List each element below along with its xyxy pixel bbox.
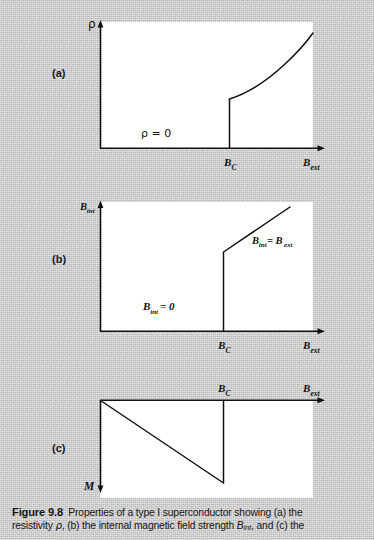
caption-bint-subscript: int	[244, 524, 252, 533]
panel-c-m-axis-label: M	[83, 480, 95, 492]
panel-c-tick-label-bc-subscript: C	[226, 389, 232, 398]
panel-c-x-axis-arrowhead	[318, 397, 326, 403]
panel-b-tick-label-bc-subscript: C	[226, 346, 232, 355]
figure-number: Figure 9.8	[12, 506, 63, 518]
panel-a-tick-label-bc: B	[223, 156, 231, 168]
panel-a: ρ ρ = 0 B C B ext	[0, 0, 374, 190]
panel-a-plot-area	[100, 22, 313, 148]
panel-c: M B C B ext	[0, 360, 374, 506]
caption-bint-symbol: B	[237, 520, 244, 531]
panel-b-x-axis-label-subscript: ext	[311, 346, 321, 355]
panel-c-tick-label-bc: B	[217, 382, 225, 394]
panel-b-annotation-bint-zero-subscript: int	[150, 308, 159, 316]
panel-b-x-axis-arrowhead	[318, 328, 326, 334]
panel-a-annotation-rho-zero: ρ = 0	[141, 127, 171, 140]
panel-b-annotation-equality-rhs-subscript: ext	[284, 241, 294, 249]
panel-b-x-axis-label: B	[302, 339, 310, 351]
caption-line-1: Properties of a type I superconductor sh…	[68, 507, 302, 518]
caption-line-2-part-b: , (b) the internal magnetic field streng…	[62, 520, 237, 531]
figure-caption: Figure 9.8 Properties of a type I superc…	[12, 506, 364, 535]
panel-b-annotation-bint-zero: B	[142, 300, 150, 312]
panel-b-annotation-equality-operator: = B	[267, 235, 283, 246]
panel-a-y-axis-label: ρ	[88, 17, 96, 31]
panel-a-x-axis-label-subscript: ext	[311, 163, 321, 172]
panel-b-plot-area	[100, 202, 313, 331]
panel-c-x-axis-label-subscript: ext	[311, 389, 321, 398]
panel-a-x-axis-label: B	[302, 156, 310, 168]
caption-line-2-part-c: , and (c) the	[251, 520, 304, 531]
panel-b: B int B int = 0 B int = B ext B C B ext	[0, 185, 374, 360]
panel-b-y-axis-label-subscript: int	[87, 207, 96, 215]
panel-c-x-axis-label: B	[302, 382, 310, 394]
panel-c-plot-area	[100, 400, 313, 498]
panel-b-annotation-bint-zero-tail: = 0	[160, 300, 175, 312]
panel-b-tick-label-bc: B	[217, 339, 225, 351]
caption-line-2-part-a: resistivity	[12, 520, 55, 531]
panel-a-x-axis-arrowhead	[318, 145, 326, 151]
panel-a-tick-label-bc-subscript: C	[232, 163, 238, 172]
